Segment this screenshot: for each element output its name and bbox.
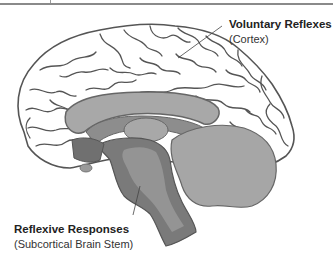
voluntary-reflexes-label: Voluntary Reflexes (Cortex) [229,17,332,47]
reflexive-responses-title: Reflexive Responses [14,222,133,237]
voluntary-reflexes-title: Voluntary Reflexes [229,17,332,32]
reflexive-responses-subtitle: (Subcortical Brain Stem) [14,237,133,252]
reflexive-responses-label: Reflexive Responses (Subcortical Brain S… [14,222,133,252]
cerebellum [171,125,276,207]
voluntary-reflexes-subtitle: (Cortex) [229,32,332,47]
